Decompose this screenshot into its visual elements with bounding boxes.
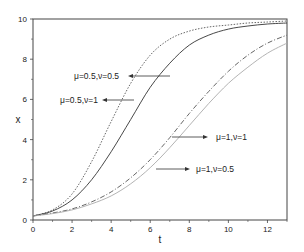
plot-frame — [33, 19, 287, 220]
annotation-mu1-nu1: μ=1,ν=1 — [216, 132, 247, 142]
y-tick-label: 8 — [23, 55, 28, 64]
x-axis-label: t — [159, 234, 162, 245]
y-tick-label: 4 — [23, 136, 28, 145]
x-tick-label: 10 — [224, 225, 233, 234]
y-tick-label: 10 — [18, 15, 27, 24]
x-tick-label: 0 — [31, 225, 36, 234]
arrowhead-icon — [102, 98, 107, 102]
curves — [33, 21, 287, 216]
x-tick-label: 4 — [109, 225, 114, 234]
x-tick-label: 8 — [187, 225, 192, 234]
curve-dash-dot — [33, 35, 287, 216]
annotation-mu05-nu1: μ=0.5,ν=1 — [60, 95, 98, 105]
arrowhead-icon — [203, 135, 208, 139]
annotation-mu05-nu05: μ=0.5,ν=0.5 — [74, 71, 119, 81]
y-tick-label: 0 — [23, 216, 28, 225]
arrowhead-icon — [185, 167, 190, 171]
y-axis-label: x — [16, 114, 21, 125]
x-tick-label: 12 — [263, 225, 272, 234]
x-axis-ticks: 024681012 — [31, 220, 287, 234]
y-tick-label: 6 — [23, 95, 28, 104]
y-tick-label: 2 — [23, 176, 28, 185]
line-chart: 024681012 0246810 μ=0.5,ν=0.5 μ=0.5,ν=1 … — [0, 0, 304, 252]
annotation-mu1-nu05: μ=1,ν=0.5 — [196, 164, 234, 174]
curve-dotted — [33, 21, 287, 216]
curve-solid — [33, 23, 287, 216]
arrowhead-icon — [128, 74, 133, 78]
curve-solid-light — [33, 43, 287, 216]
x-tick-label: 2 — [70, 225, 75, 234]
annotations: μ=0.5,ν=0.5 μ=0.5,ν=1 μ=1,ν=1 μ=1,ν=0.5 — [60, 71, 247, 174]
x-tick-label: 6 — [148, 225, 153, 234]
